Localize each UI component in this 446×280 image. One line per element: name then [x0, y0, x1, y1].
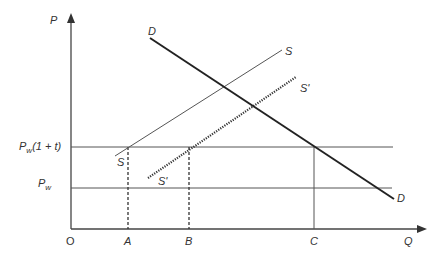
supply-shifted-label-end: S' — [300, 82, 310, 94]
x-axis-label: Q — [404, 235, 413, 247]
supply-demand-diagram: P Q O Pw(1 + t) Pw A B C D D S S S' S' — [0, 0, 446, 280]
demand-curve — [150, 38, 394, 199]
quantity-label-a: A — [123, 235, 131, 247]
supply-shifted-label-start: S' — [158, 175, 168, 187]
supply-curve — [115, 50, 282, 156]
supply-label-end: S — [285, 45, 293, 57]
demand-label-start: D — [148, 25, 156, 37]
quantity-label-c: C — [310, 235, 318, 247]
supply-curve-shifted — [148, 77, 296, 178]
supply-label-start: S — [117, 156, 125, 168]
price-label-pw-tariff: Pw(1 + t) — [19, 140, 61, 155]
origin-label: O — [66, 235, 75, 247]
demand-label-end: D — [397, 192, 405, 204]
quantity-label-b: B — [185, 235, 192, 247]
y-axis-label: P — [50, 14, 58, 26]
price-label-pw: Pw — [38, 177, 52, 192]
